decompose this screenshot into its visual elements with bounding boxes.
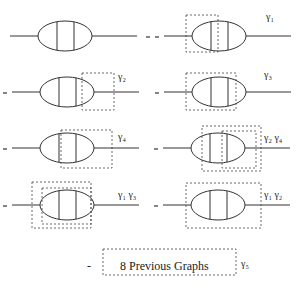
subgraph-box — [32, 182, 91, 228]
subgraph-box — [61, 130, 112, 168]
label-gamma1: γ₁ — [266, 12, 274, 22]
graph-canvas — [0, 0, 298, 289]
loop-ellipse — [191, 133, 245, 163]
label-gamma2-gamma4: γ₂ γ₄ — [264, 133, 282, 143]
loop-ellipse — [192, 21, 246, 51]
loop-ellipse — [192, 77, 246, 107]
previous-graphs-text: 8 Previous Graphs — [120, 259, 209, 274]
feynman-graph-diagram: γ₁ γ₂ γ₃ γ₄ γ₂ γ₄ γ₁ γ₃ γ₁ γ₂ - 8 Previo… — [0, 0, 298, 289]
label-gamma3: γ₃ — [264, 70, 272, 80]
loop-ellipse — [191, 190, 245, 220]
label-gamma4: γ₄ — [118, 132, 126, 142]
footer-minus: - — [87, 260, 91, 272]
label-gamma1-gamma3: γ₁ γ₃ — [118, 190, 136, 200]
loop-ellipse — [40, 133, 94, 163]
loop-ellipse — [40, 190, 94, 220]
loop-ellipse — [40, 77, 94, 107]
subgraph-box — [186, 15, 218, 52]
label-gamma2: γ₂ — [118, 72, 126, 82]
loop-ellipse — [38, 21, 92, 51]
label-gamma5: γ₅ — [241, 259, 249, 269]
label-gamma1-gamma2: γ₁ γ₂ — [264, 190, 282, 200]
